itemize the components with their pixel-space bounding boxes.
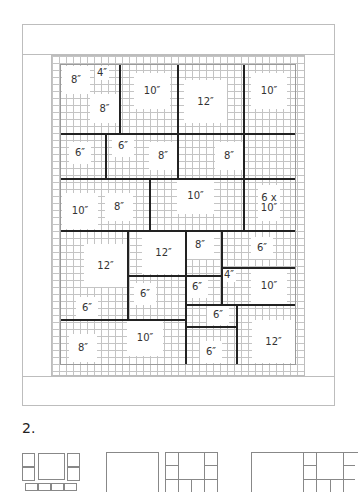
mini-block — [38, 483, 51, 491]
block-label: 6″ — [213, 310, 223, 320]
block-6in: 6″ — [134, 283, 156, 305]
block-12in: 12″ — [252, 320, 295, 363]
block-8in: 8″ — [149, 142, 177, 170]
mini-divider — [178, 452, 179, 492]
divider-line — [61, 230, 295, 232]
mini-block — [25, 483, 38, 491]
divider-line — [119, 65, 121, 133]
block-12in: 12″ — [142, 231, 185, 274]
block-label: 10″ — [144, 86, 160, 96]
block-label: 6″ — [257, 243, 267, 253]
block-8in: 8″ — [90, 94, 119, 123]
block-8in: 8″ — [62, 66, 90, 94]
block-label: 6″ — [118, 141, 128, 151]
block-10in: 10″ — [251, 268, 287, 304]
block-6in: 6″ — [76, 297, 98, 319]
mini-divider — [165, 465, 178, 466]
block-12in: 12″ — [84, 244, 127, 287]
mini-block — [51, 483, 64, 491]
block-label: 8″ — [224, 151, 234, 161]
block-label: 10″ — [261, 86, 277, 96]
block-6in: 6″ — [251, 237, 273, 259]
divider-line — [61, 319, 185, 321]
block-label: 10″ — [261, 281, 277, 291]
block-label: 12″ — [197, 97, 213, 107]
block-6in: 6″ — [186, 276, 208, 298]
mini-block — [22, 467, 35, 481]
mini-divider — [191, 479, 192, 492]
block-10in: 10″ — [134, 73, 170, 109]
divider-line — [185, 304, 295, 306]
block-label: 12″ — [155, 248, 171, 258]
block-label: 4″ — [97, 68, 107, 78]
block-12in: 12″ — [184, 80, 227, 123]
divider-line — [177, 65, 179, 178]
block-label: 10″ — [72, 206, 88, 216]
top-border-band — [22, 24, 335, 55]
divider-line — [243, 65, 245, 230]
divider-line — [185, 326, 237, 328]
block-10in: 10″ — [127, 320, 163, 356]
divider-line — [127, 275, 221, 277]
block-4in: 4″ — [95, 66, 109, 80]
block-label: 8″ — [71, 75, 81, 85]
block-8in: 8″ — [69, 334, 97, 362]
block-label: 12″ — [97, 261, 113, 271]
mini-block — [64, 483, 77, 491]
divider-line — [61, 178, 295, 180]
block-6in: 6″ — [207, 305, 229, 325]
block-10in: 10″ — [62, 193, 98, 229]
mini-divider — [316, 452, 317, 492]
block-label: 6″ — [206, 347, 216, 357]
mini-divider — [343, 465, 355, 466]
block-label: 6″ — [82, 303, 92, 313]
block-label: 4″ — [224, 270, 234, 280]
mini-divider — [303, 465, 316, 466]
mini-block — [67, 467, 80, 481]
block-label: 12″ — [265, 337, 281, 347]
mini-block-large — [251, 452, 304, 492]
block-6in: 6″ — [200, 341, 222, 363]
mini-block — [38, 453, 65, 480]
block-label: 6″ — [192, 282, 202, 292]
mini-block-large — [106, 452, 159, 492]
bottom-border-band — [22, 376, 335, 406]
block-10in: 10″ — [251, 73, 287, 109]
divider-line — [236, 304, 238, 364]
block-6x10in: 6 x 10″ — [258, 185, 280, 221]
divider-line — [149, 178, 151, 230]
block-label: 8″ — [158, 151, 168, 161]
mini-block — [22, 453, 35, 467]
block-6in: 6″ — [112, 135, 134, 157]
block-4in: 4″ — [222, 268, 236, 282]
mini-divider — [330, 479, 331, 492]
block-label: 8″ — [99, 104, 109, 114]
divider-line — [221, 267, 295, 269]
divider-line — [105, 133, 107, 178]
block-label: 6″ — [75, 148, 85, 158]
mini-divider — [204, 465, 218, 466]
block-6in: 6″ — [69, 142, 91, 164]
block-label: 8″ — [195, 240, 205, 250]
block-label: 6″ — [140, 289, 150, 299]
mini-divider — [303, 479, 355, 480]
divider-line — [185, 230, 187, 364]
block-8in: 8″ — [215, 142, 243, 170]
mini-divider — [343, 452, 344, 492]
block-label: 10″ — [187, 191, 203, 201]
block-8in: 8″ — [186, 231, 214, 259]
block-8in: 8″ — [105, 193, 133, 221]
block-label: 10″ — [137, 333, 153, 343]
section-number: 2. — [22, 420, 35, 436]
block-10in: 10″ — [177, 178, 214, 214]
block-label: 8″ — [78, 343, 88, 353]
mini-block — [67, 453, 80, 467]
mini-divider — [204, 452, 205, 492]
block-label: 6 x 10″ — [260, 193, 278, 213]
block-label: 8″ — [114, 202, 124, 212]
